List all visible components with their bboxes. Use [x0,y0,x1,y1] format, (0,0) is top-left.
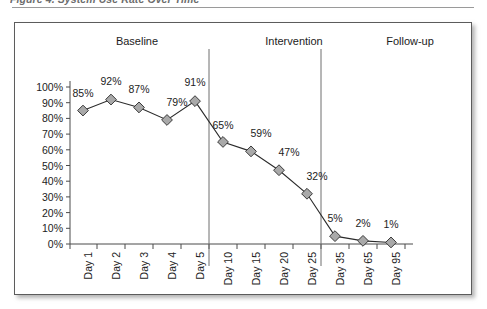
data-label-day-5: 91% [184,76,205,88]
data-label-day-35: 5% [327,212,342,224]
data-label-day-25: 32% [306,170,327,182]
chart-frame: Baseline Intervention Follow-up 100%90%8… [14,22,472,295]
data-label-day-20: 47% [278,146,299,158]
data-point-marker [106,94,117,105]
data-point-marker [330,231,341,242]
x-axis-tick-day-5: Day 5 [194,252,206,279]
x-axis-tick-day-25: Day 25 [306,252,318,285]
x-axis-tick-day-20: Day 20 [278,252,290,285]
data-label-day-4: 79% [166,96,187,108]
data-label-day-3: 87% [128,83,149,95]
x-axis-tick-day-95: Day 95 [390,252,402,285]
caption-divider-rule [12,7,474,8]
data-point-marker [134,102,145,113]
data-label-day-2: 92% [100,75,121,87]
data-label-day-1: 85% [72,87,93,99]
data-point-marker [218,137,229,148]
x-axis-tick-day-10: Day 10 [222,252,234,285]
figure-caption: Figure 4. System Use Rate Over Time [10,0,340,5]
data-label-day-95: 1% [383,218,398,230]
data-label-day-65: 2% [355,217,370,229]
series-line [83,100,391,243]
x-axis-tick-day-2: Day 2 [110,252,122,279]
data-point-marker [190,96,201,107]
data-label-day-10: 65% [212,119,233,131]
data-point-marker [162,115,173,126]
x-axis-tick-day-3: Day 3 [138,252,150,279]
x-axis-tick-day-65: Day 65 [362,252,374,285]
x-axis-tick-day-1: Day 1 [82,252,94,279]
data-point-marker [358,235,369,246]
x-axis-tick-day-4: Day 4 [166,252,178,279]
data-point-marker [386,237,397,248]
data-label-day-15: 59% [250,127,271,139]
x-axis-tick-day-35: Day 35 [334,252,346,285]
data-point-marker [78,105,89,116]
x-axis-tick-day-15: Day 15 [250,252,262,285]
plot-area: 85%92%87%79%91%65%59%47%32%5%2%1%Day 1Da… [15,23,473,296]
data-point-marker [246,146,257,157]
